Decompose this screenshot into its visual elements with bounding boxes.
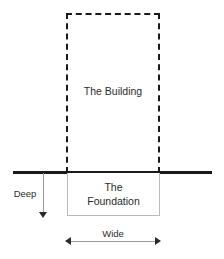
foundation-label-line-1: The bbox=[62, 180, 165, 194]
arrow-down-icon bbox=[39, 212, 47, 218]
foundation-label: The Foundation bbox=[62, 180, 165, 208]
depth-dimension-line bbox=[43, 173, 44, 214]
foundation-label-line-2: Foundation bbox=[62, 194, 165, 208]
building-label: The Building bbox=[66, 85, 160, 98]
width-dimension-line bbox=[68, 241, 159, 242]
width-dimension-label: Wide bbox=[66, 228, 160, 239]
depth-dimension-label: Deep bbox=[8, 188, 42, 199]
diagram-canvas: The Building The Foundation Deep Wide bbox=[0, 0, 224, 259]
